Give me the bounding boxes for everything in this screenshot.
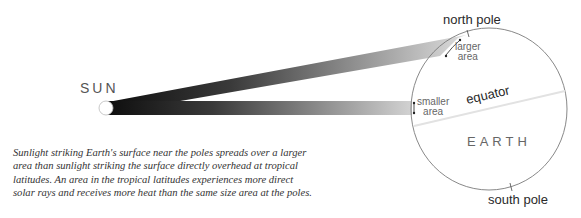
north-pole-label: north pole xyxy=(443,12,501,27)
larger-area-label: larger area xyxy=(455,42,481,62)
sun-label: SUN xyxy=(80,80,119,96)
south-pole-label: south pole xyxy=(488,192,548,207)
sun-icon xyxy=(99,101,113,115)
earth-label: EARTH xyxy=(467,134,531,149)
tropical-sunlight-beam xyxy=(108,101,412,115)
diagram-caption: Sunlight striking Earth's surface near t… xyxy=(13,146,313,200)
smaller-area-label: smaller area xyxy=(417,97,449,117)
